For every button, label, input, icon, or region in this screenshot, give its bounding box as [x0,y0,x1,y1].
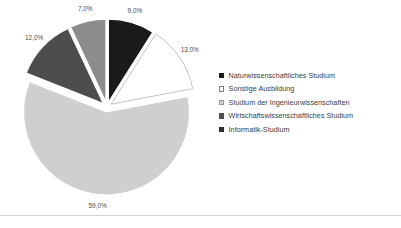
pie-slice-value-label: 13,0% [181,46,199,53]
pie-slice[interactable] [24,81,190,195]
legend-item[interactable]: Studium der Ingenieurwissenschaften [219,96,399,109]
chart-legend: Naturwissenschaftliches StudiumSonstige … [219,69,399,136]
legend-item-label: Wirtschaftswissenschaftliches Studium [229,112,354,119]
pie-slice-value-label: 9,0% [128,7,143,14]
legend-swatch-icon [219,100,224,105]
legend-item[interactable]: Wirtschaftswissenschaftliches Studium [219,109,399,122]
pie-slice-value-label: 59,0% [89,202,107,209]
pie-chart-svg: 9,0%13,0%59,0%12,0%7,0% [0,0,215,215]
pie-slices-group [24,19,193,195]
pie-slice-value-label: 7,0% [78,5,93,12]
legend-item-label: Informatik-Studium [229,126,290,133]
legend-item[interactable]: Naturwissenschaftliches Studium [219,69,399,82]
legend-item[interactable]: Sonstige Ausbildung [219,82,399,95]
legend-item[interactable]: Informatik-Studium [219,123,399,136]
legend-item-label: Studium der Ingenieurwissenschaften [229,99,350,106]
legend-swatch-icon [219,73,224,78]
legend-item-label: Sonstige Ausbildung [229,85,295,92]
legend-swatch-icon [219,113,224,118]
legend-swatch-icon [219,127,224,132]
bottom-divider [0,215,401,216]
legend-item-label: Naturwissenschaftliches Studium [229,72,335,79]
pie-chart-area: 9,0%13,0%59,0%12,0%7,0% [0,0,215,215]
legend-swatch-icon [219,86,224,91]
chart-page: 9,0%13,0%59,0%12,0%7,0% Naturwissenschaf… [0,0,401,228]
pie-slice-value-label: 12,0% [25,34,43,41]
